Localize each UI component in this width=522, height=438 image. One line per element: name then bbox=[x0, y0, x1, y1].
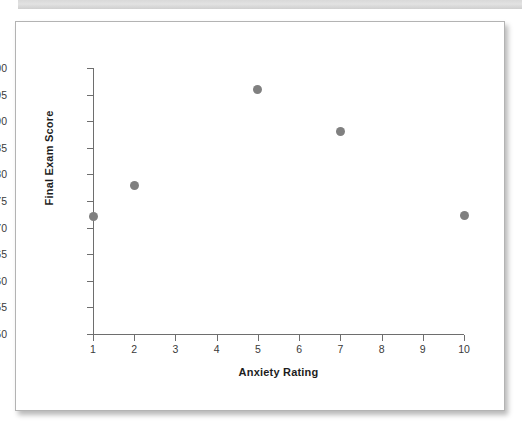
top-page-band bbox=[18, 0, 522, 9]
x-axis-line bbox=[93, 334, 464, 335]
y-tick-label: 65 bbox=[0, 249, 7, 260]
y-tick-label: 100 bbox=[0, 63, 7, 74]
x-tick-label: 5 bbox=[243, 344, 273, 355]
figure-card: 50556065707580859095100 12345678910 Fina… bbox=[15, 21, 505, 411]
x-tick-label: 2 bbox=[119, 344, 149, 355]
y-tick-mark bbox=[87, 307, 93, 308]
data-point bbox=[253, 85, 262, 94]
y-tick-mark bbox=[87, 95, 93, 96]
y-tick-mark bbox=[87, 254, 93, 255]
x-tick-mark bbox=[464, 335, 465, 341]
y-axis-line bbox=[93, 68, 94, 335]
x-tick-label: 7 bbox=[325, 344, 355, 355]
x-tick-mark bbox=[258, 335, 259, 341]
x-tick-mark bbox=[134, 335, 135, 341]
x-tick-mark bbox=[340, 335, 341, 341]
y-tick-label: 50 bbox=[0, 329, 7, 340]
data-point bbox=[336, 127, 345, 136]
x-tick-mark bbox=[175, 335, 176, 341]
y-tick-label: 70 bbox=[0, 223, 7, 234]
x-tick-label: 10 bbox=[449, 344, 479, 355]
x-tick-label: 3 bbox=[160, 344, 190, 355]
y-tick-mark bbox=[87, 228, 93, 229]
y-tick-mark bbox=[87, 121, 93, 122]
y-tick-label: 80 bbox=[0, 169, 7, 180]
x-axis-title: Anxiety Rating bbox=[93, 366, 464, 378]
y-tick-label: 60 bbox=[0, 276, 7, 287]
scatter-plot: 50556065707580859095100 12345678910 Fina… bbox=[16, 22, 504, 410]
y-tick-mark bbox=[87, 68, 93, 69]
y-tick-mark bbox=[87, 281, 93, 282]
y-tick-label: 75 bbox=[0, 196, 7, 207]
x-tick-mark bbox=[299, 335, 300, 341]
x-tick-label: 8 bbox=[367, 344, 397, 355]
y-axis-title: Final Exam Score bbox=[43, 78, 55, 238]
y-tick-label: 55 bbox=[0, 302, 7, 313]
data-point bbox=[89, 212, 98, 221]
x-tick-label: 6 bbox=[284, 344, 314, 355]
x-tick-mark bbox=[217, 335, 218, 341]
y-tick-mark bbox=[87, 174, 93, 175]
y-tick-mark bbox=[87, 148, 93, 149]
data-point bbox=[130, 181, 139, 190]
y-tick-label: 90 bbox=[0, 116, 7, 127]
x-tick-mark bbox=[382, 335, 383, 341]
y-tick-label: 85 bbox=[0, 143, 7, 154]
x-tick-label: 4 bbox=[202, 344, 232, 355]
x-tick-mark bbox=[93, 335, 94, 341]
x-tick-label: 9 bbox=[408, 344, 438, 355]
x-tick-label: 1 bbox=[78, 344, 108, 355]
y-tick-label: 95 bbox=[0, 90, 7, 101]
y-tick-mark bbox=[87, 201, 93, 202]
data-point bbox=[460, 211, 469, 220]
x-tick-mark bbox=[423, 335, 424, 341]
